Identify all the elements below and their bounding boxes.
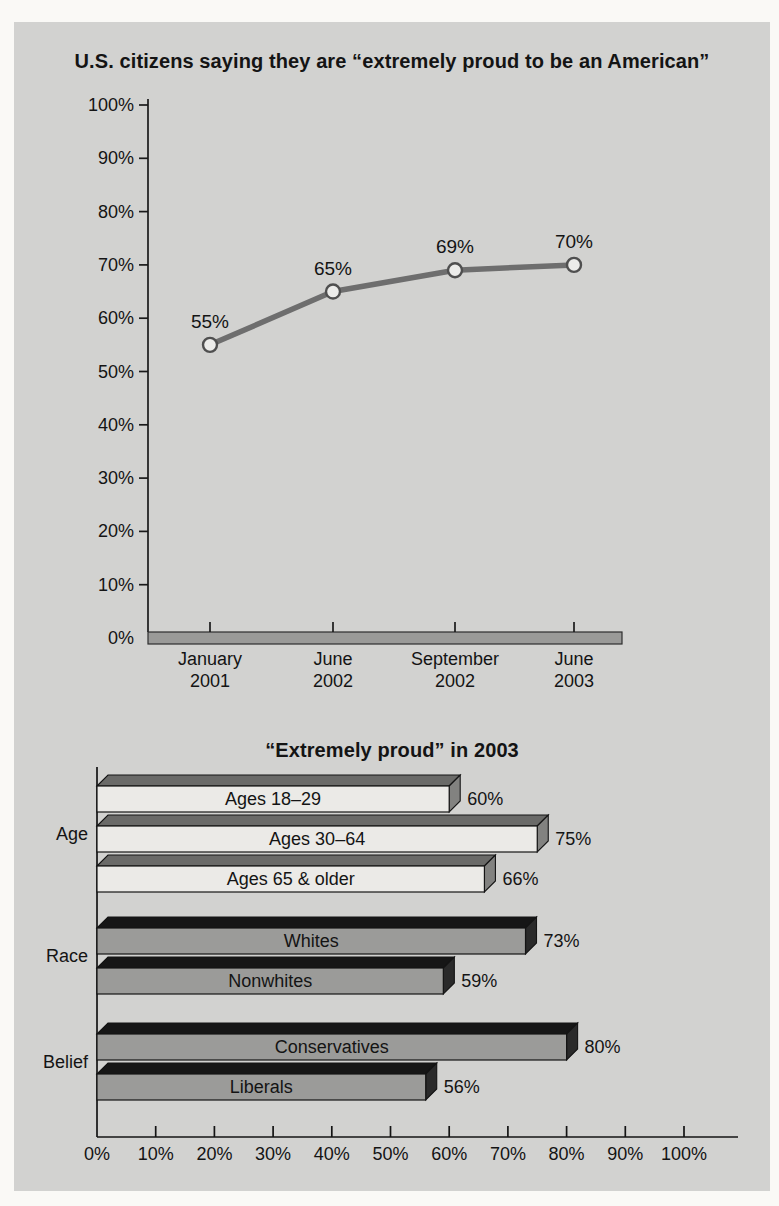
data-line	[210, 265, 574, 345]
data-point-marker	[203, 338, 217, 352]
bar-value-label: 66%	[502, 869, 538, 889]
bar-value-label: 73%	[544, 931, 580, 951]
y-tick-label: 100%	[88, 95, 134, 115]
y-tick-label: 10%	[98, 575, 134, 595]
bar-top-bevel	[97, 815, 548, 826]
y-tick-label: 0%	[108, 628, 134, 648]
x-tick-label-line1: September	[411, 649, 499, 669]
bar-label: Nonwhites	[228, 971, 312, 991]
data-point-marker	[567, 258, 581, 272]
x-tick-label: 50%	[372, 1144, 408, 1164]
bar-label: Conservatives	[275, 1037, 389, 1057]
x-tick-label-line2: 2002	[435, 671, 475, 691]
bar-value-label: 75%	[555, 829, 591, 849]
x-tick-label-line1: June	[313, 649, 352, 669]
bar-top-bevel	[97, 775, 460, 786]
data-point-marker	[326, 285, 340, 299]
x-tick-label: 60%	[431, 1144, 467, 1164]
x-tick-label: 10%	[138, 1144, 174, 1164]
x-tick-label-line1: June	[554, 649, 593, 669]
bar-chart: 0%10%20%30%40%50%60%70%80%90%100%Ages 18…	[43, 767, 738, 1164]
bar-value-label: 60%	[467, 789, 503, 809]
y-tick-label: 70%	[98, 255, 134, 275]
bar-top-bevel	[97, 1063, 437, 1074]
x-tick-label: 80%	[549, 1144, 585, 1164]
x-tick-label-line1: January	[178, 649, 242, 669]
group-label: Race	[46, 946, 88, 966]
scanned-figure-page: U.S. citizens saying they are “extremely…	[0, 0, 779, 1206]
y-tick-label: 50%	[98, 362, 134, 382]
x-tick-label-line2: 2002	[313, 671, 353, 691]
bar-group-race: Whites73%Nonwhites59%	[97, 917, 580, 994]
bar-label: Whites	[284, 931, 339, 951]
bar-label: Ages 30–64	[269, 829, 365, 849]
x-tick-label: 90%	[607, 1144, 643, 1164]
group-label: Belief	[43, 1052, 89, 1072]
bar-value-label: 80%	[585, 1037, 621, 1057]
x-tick-label: 40%	[314, 1144, 350, 1164]
y-tick-label: 80%	[98, 202, 134, 222]
y-tick-label: 40%	[98, 415, 134, 435]
data-point-label: 69%	[436, 236, 474, 257]
data-point-label: 65%	[314, 258, 352, 279]
x-tick-label: 0%	[84, 1144, 110, 1164]
x-tick-label-line2: 2001	[190, 671, 230, 691]
line-chart: 0%10%20%30%40%50%60%70%80%90%100%January…	[88, 95, 622, 691]
data-point-label: 55%	[191, 311, 229, 332]
figure-panel: U.S. citizens saying they are “extremely…	[14, 22, 770, 1191]
x-tick-label: 30%	[255, 1144, 291, 1164]
bar-label: Ages 65 & older	[227, 869, 355, 889]
bar-value-label: 56%	[444, 1077, 480, 1097]
bar-value-label: 59%	[461, 971, 497, 991]
y-tick-label: 30%	[98, 468, 134, 488]
x-tick-label: 20%	[196, 1144, 232, 1164]
data-point-label: 70%	[555, 231, 593, 252]
x-tick-label: 70%	[490, 1144, 526, 1164]
y-tick-label: 60%	[98, 308, 134, 328]
group-label: Age	[56, 824, 88, 844]
bar-top-bevel	[97, 1023, 578, 1034]
bar-top-bevel	[97, 855, 495, 866]
bar-top-bevel	[97, 957, 454, 968]
y-tick-label: 90%	[98, 148, 134, 168]
bar-label: Ages 18–29	[225, 789, 321, 809]
y-tick-label: 20%	[98, 521, 134, 541]
x-tick-label-line2: 2003	[554, 671, 594, 691]
bar-label: Liberals	[230, 1077, 293, 1097]
charts-canvas: 0%10%20%30%40%50%60%70%80%90%100%January…	[14, 22, 770, 1191]
bar-group-belief: Conservatives80%Liberals56%	[97, 1023, 621, 1100]
bar-top-bevel	[97, 917, 537, 928]
x-tick-label: 100%	[661, 1144, 707, 1164]
bar-group-age: Ages 18–2960%Ages 30–6475%Ages 65 & olde…	[97, 775, 591, 892]
data-point-marker	[448, 263, 462, 277]
x-axis-band	[148, 632, 622, 644]
